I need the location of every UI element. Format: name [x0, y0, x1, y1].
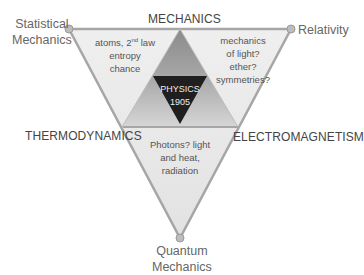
label-line: Quantum	[152, 243, 212, 259]
region-line: symmetries?	[213, 73, 273, 86]
label-line: Mechanics	[152, 259, 212, 275]
label-line: Mechanics	[12, 32, 72, 48]
region-line: and heat,	[140, 151, 220, 164]
label-thermodynamics: THERMODYNAMICS	[25, 129, 142, 143]
label-relativity: Relativity	[298, 22, 349, 38]
region-quantum-text: Photons? light and heat, radiation	[140, 138, 220, 177]
region-line: entropy	[90, 49, 160, 62]
node-quantum-mechanics	[176, 234, 184, 242]
region-relativity-text: mechanics of light? ether? symmetries?	[213, 34, 273, 86]
region-line: Photons? light	[140, 138, 220, 151]
center-physics-1905: PHYSICS 1905	[155, 83, 205, 109]
region-line: chance	[90, 62, 160, 75]
region-statistical-text: atoms, 2nd law entropy chance	[90, 34, 160, 75]
label-electromagnetism: ELECTROMAGNETISM	[233, 130, 364, 144]
label-quantum-mechanics: Quantum Mechanics	[152, 243, 212, 275]
region-line: atoms, 2nd law	[90, 34, 160, 49]
center-line: PHYSICS	[155, 83, 205, 96]
region-line: of light?	[213, 47, 273, 60]
text: law	[138, 37, 155, 48]
node-relativity	[287, 25, 295, 33]
region-line: radiation	[140, 164, 220, 177]
text: atoms, 2	[95, 37, 131, 48]
label-statistical-mechanics: Statistical Mechanics	[12, 16, 72, 48]
region-line: ether?	[213, 60, 273, 73]
center-line: 1905	[155, 96, 205, 109]
label-line: Statistical	[12, 16, 72, 32]
label-mechanics: MECHANICS	[148, 12, 221, 26]
region-line: mechanics	[213, 34, 273, 47]
